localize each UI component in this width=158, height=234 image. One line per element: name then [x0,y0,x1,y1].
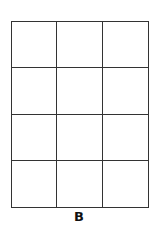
figure-label: B [0,209,158,224]
grid-cell [57,68,102,114]
grid-diagram [11,21,149,208]
grid-cell [57,115,102,161]
grid-cell [57,161,102,207]
grid-cell [57,22,102,68]
grid-cell [12,22,57,68]
grid-cell [12,68,57,114]
grid-cell [103,22,148,68]
grid-cell [103,115,148,161]
grid-cell [103,68,148,114]
grid-cell [103,161,148,207]
grid-cell [12,161,57,207]
grid-cell [12,115,57,161]
